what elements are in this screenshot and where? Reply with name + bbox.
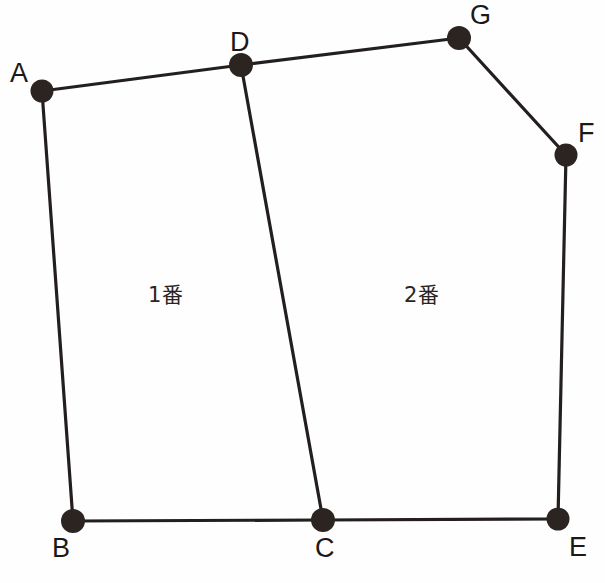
vertex-dot-e — [547, 508, 570, 531]
region-label-region-2: 2番 — [404, 285, 440, 306]
vertex-dot-g — [447, 26, 471, 50]
edge-group — [42, 38, 566, 521]
vertex-label-c: C — [315, 535, 335, 562]
vertex-dot-b — [61, 509, 85, 533]
vertex-label-b: B — [52, 535, 71, 562]
edge-d-g — [241, 38, 459, 65]
vertex-dot-c — [311, 508, 335, 532]
figure-canvas: ADGFECB 1番2番 — [0, 0, 605, 583]
vertex-label-g: G — [470, 2, 492, 29]
vertex-dot-f — [555, 144, 578, 167]
vertex-dot-group — [31, 26, 578, 533]
vertex-label-e: E — [569, 534, 588, 561]
vertex-label-a: A — [10, 60, 29, 87]
region-label-region-1: 1番 — [148, 285, 184, 306]
vertex-dot-a — [31, 80, 54, 103]
edge-a-d — [42, 65, 241, 91]
diagram-svg — [0, 0, 605, 583]
edge-b-a — [42, 91, 73, 521]
edge-c-b — [73, 520, 323, 521]
edge-g-f — [459, 38, 566, 155]
edge-f-e — [558, 155, 566, 519]
vertex-label-d: D — [230, 29, 250, 56]
edge-e-c — [323, 519, 558, 520]
vertex-label-f: F — [578, 120, 595, 147]
edge-d-c — [241, 65, 323, 520]
